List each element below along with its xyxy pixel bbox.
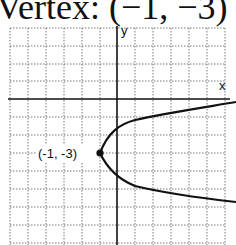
y-axis-label: y xyxy=(121,23,128,38)
parabola-curve xyxy=(100,102,236,202)
grid xyxy=(10,28,226,245)
vertex-label: (-1, -3) xyxy=(38,146,77,161)
x-axis-label: x xyxy=(219,78,226,93)
graph: y x (-1, -3) xyxy=(0,0,236,245)
axes xyxy=(8,26,230,245)
vertex-point xyxy=(96,149,103,156)
